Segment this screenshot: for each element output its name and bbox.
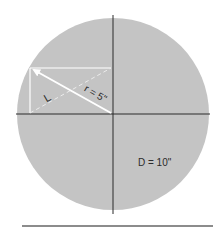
circle-diagram: L r = 5" D = 10"	[0, 0, 222, 233]
diameter-label: D = 10"	[138, 157, 172, 168]
